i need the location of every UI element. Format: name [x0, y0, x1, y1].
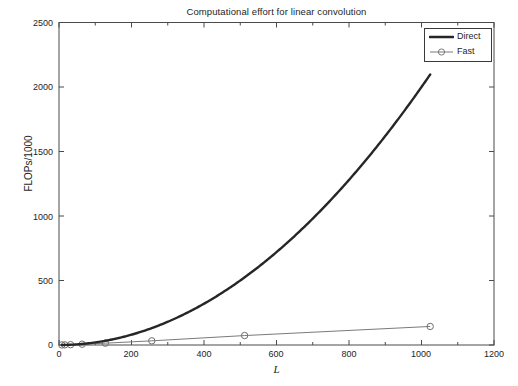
legend: Direct Fast — [424, 28, 492, 62]
legend-label-direct: Direct — [457, 31, 481, 41]
tick-marks — [59, 23, 494, 346]
series-line-direct — [62, 74, 430, 344]
figure-canvas: Computational effort for linear convolut… — [0, 0, 518, 386]
series-line-fast — [62, 326, 430, 344]
legend-label-fast: Fast — [457, 46, 475, 56]
axes-frame — [59, 23, 494, 346]
legend-swatch-fast — [429, 45, 454, 59]
legend-item-fast: Fast — [425, 45, 491, 60]
legend-swatch-direct — [429, 30, 454, 44]
legend-item-direct: Direct — [425, 30, 491, 45]
